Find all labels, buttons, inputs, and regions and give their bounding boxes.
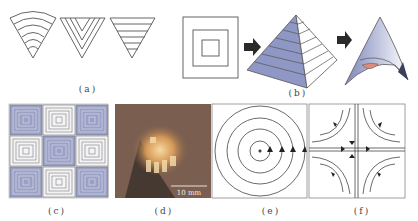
panel-a-stripe-triangle [110,18,155,58]
arrow-icon [331,122,382,177]
panel-a-arc-triangle [10,12,56,59]
arrow-icon [267,146,307,152]
panel-a-chevron-triangle [60,18,105,58]
panel-f-label: (f) [354,206,370,216]
panel-d-label: (d) [155,206,174,216]
panel-c-tessellation [9,104,108,198]
arrow-icon [244,38,261,56]
panel-b-concentric-squares [183,17,238,78]
panel-e-circles [212,104,307,198]
panel-f-saddle-flow [309,104,405,198]
panel-b-curved-shell [345,17,408,85]
panel-b-label: (b) [289,88,308,98]
figure-canvas: 10 mm [0,0,418,221]
panel-e-label: (e) [262,206,280,216]
panel-d-photo: 10 mm [115,104,211,198]
panel-a-label: (a) [79,84,97,94]
panel-c-label: (c) [48,206,66,216]
scale-bar-label: 10 mm [177,189,202,197]
arrow-icon [337,31,352,49]
panel-b-pyramid [247,15,337,88]
